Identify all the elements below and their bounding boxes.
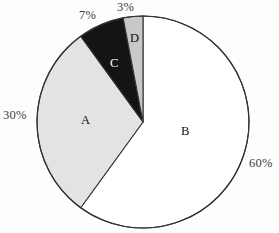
pie-slice-label-a: A xyxy=(81,114,90,127)
pie-chart-canvas xyxy=(0,0,279,233)
pie-slice-label-d: D xyxy=(130,32,139,45)
pie-value-label-c: 7% xyxy=(79,9,96,22)
pie-value-label-a: 30% xyxy=(3,109,27,122)
pie-value-label-d: 3% xyxy=(117,1,134,14)
pie-chart: 30% 60% 7% 3% A B C D xyxy=(0,0,279,233)
pie-value-label-b: 60% xyxy=(249,157,273,170)
pie-slice-label-b: B xyxy=(181,125,189,138)
pie-slice-label-c: C xyxy=(110,57,118,70)
